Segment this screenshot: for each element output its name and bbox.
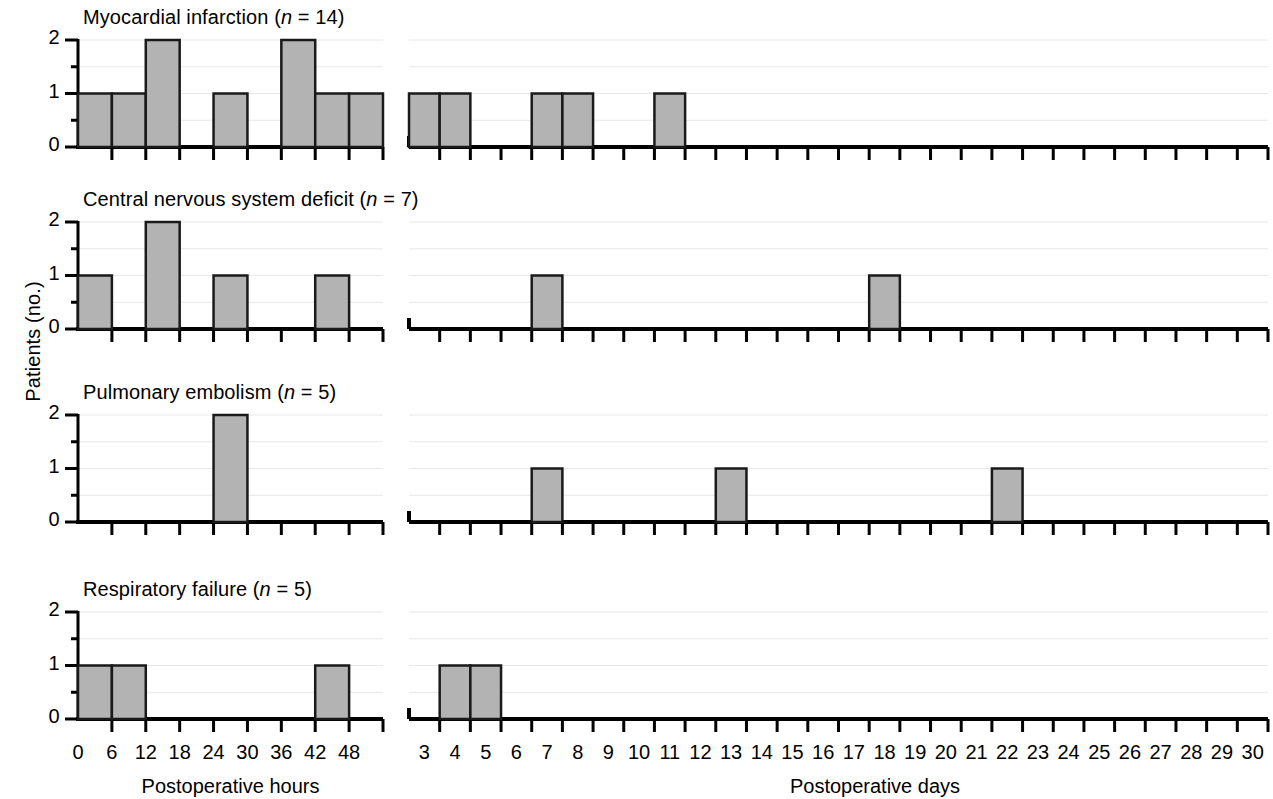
bar — [78, 276, 112, 330]
bar — [214, 415, 248, 522]
y-tick-label: 2 — [48, 208, 59, 231]
x-tick-label-days: 11 — [659, 741, 680, 764]
bar — [112, 94, 146, 148]
x-tick-label-days: 17 — [843, 741, 865, 764]
bar — [112, 666, 146, 720]
x-tick-label-days: 21 — [965, 741, 987, 764]
bar — [654, 94, 685, 148]
figure-root: Patients (no.) 012Myocardial infarction … — [0, 0, 1273, 799]
x-tick-label-days: 28 — [1180, 741, 1202, 764]
y-tick-label: 2 — [48, 598, 59, 621]
x-tick-label-hours: 18 — [169, 741, 191, 764]
panel-title: Central nervous system deficit (n = 7) — [83, 188, 419, 211]
x-tick-label-hours: 12 — [135, 741, 157, 764]
bar — [562, 94, 593, 148]
x-tick-label-days: 6 — [511, 741, 522, 764]
bar — [315, 94, 349, 148]
bar — [440, 94, 471, 148]
x-tick-label-days: 25 — [1088, 741, 1110, 764]
bar — [281, 40, 315, 147]
y-tick-label: 2 — [48, 26, 59, 49]
bar — [78, 94, 112, 148]
x-tick-label-days: 14 — [751, 741, 773, 764]
x-tick-label-hours: 36 — [270, 741, 292, 764]
x-tick-label-days: 30 — [1242, 741, 1264, 764]
x-tick-label-days: 29 — [1211, 741, 1233, 764]
x-tick-label-days: 15 — [781, 741, 803, 764]
bar — [992, 469, 1023, 523]
bar — [869, 276, 900, 330]
y-tick-label: 0 — [48, 315, 59, 338]
x-tick-label-days: 3 — [419, 741, 430, 764]
x-tick-label-days: 8 — [572, 741, 583, 764]
y-tick-label: 1 — [48, 80, 59, 103]
bar — [440, 666, 471, 720]
x-tick-label-days: 20 — [935, 741, 957, 764]
y-tick-label: 0 — [48, 133, 59, 156]
x-tick-label-days: 10 — [628, 741, 650, 764]
x-tick-label-days: 4 — [449, 741, 460, 764]
bar — [532, 94, 563, 148]
panel-title: Pulmonary embolism (n = 5) — [83, 381, 336, 404]
bar — [470, 666, 501, 720]
x-tick-label-days: 16 — [812, 741, 834, 764]
bar — [349, 94, 383, 148]
panel-title: Myocardial infarction (n = 14) — [83, 6, 344, 29]
x-tick-label-hours: 24 — [202, 741, 224, 764]
bar — [532, 469, 563, 523]
x-axis-title-hours: Postoperative hours — [121, 775, 341, 798]
bar — [214, 94, 248, 148]
bar — [315, 666, 349, 720]
x-tick-label-days: 5 — [480, 741, 491, 764]
bar — [146, 40, 180, 147]
x-tick-label-days: 7 — [541, 741, 552, 764]
x-tick-label-days: 22 — [996, 741, 1018, 764]
bar — [146, 222, 180, 329]
x-axis-title-right: Postoperative days — [765, 775, 985, 798]
x-tick-label-days: 23 — [1027, 741, 1049, 764]
x-tick-label-hours: 0 — [72, 741, 83, 764]
x-tick-label-days: 24 — [1057, 741, 1079, 764]
bar — [214, 276, 248, 330]
bar — [532, 276, 563, 330]
x-tick-label-hours: 30 — [236, 741, 258, 764]
panel-title: Respiratory failure (n = 5) — [83, 578, 312, 601]
bar — [716, 469, 747, 523]
y-tick-label: 1 — [48, 455, 59, 478]
x-tick-label-days: 27 — [1150, 741, 1172, 764]
y-tick-label: 0 — [48, 705, 59, 728]
bar — [409, 94, 440, 148]
x-tick-label-days: 13 — [720, 741, 742, 764]
y-tick-label: 0 — [48, 508, 59, 531]
x-tick-label-days: 12 — [689, 741, 711, 764]
x-tick-label-days: 26 — [1119, 741, 1141, 764]
y-tick-label: 1 — [48, 262, 59, 285]
y-tick-label: 1 — [48, 652, 59, 675]
x-tick-label-hours: 42 — [304, 741, 326, 764]
bar — [315, 276, 349, 330]
x-tick-label-hours: 6 — [106, 741, 117, 764]
x-tick-label-days: 19 — [904, 741, 926, 764]
x-tick-label-hours: 48 — [338, 741, 360, 764]
bar — [78, 666, 112, 720]
y-tick-label: 2 — [48, 401, 59, 424]
x-tick-label-days: 9 — [603, 741, 614, 764]
x-tick-label-days: 18 — [873, 741, 895, 764]
